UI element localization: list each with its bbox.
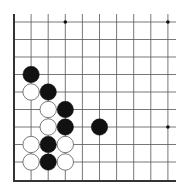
- black-stone: [40, 136, 56, 152]
- white-stone: [40, 119, 56, 135]
- black-stone: [91, 119, 107, 135]
- white-stone: [23, 84, 39, 100]
- star-point: [166, 20, 170, 24]
- black-stone: [57, 119, 73, 135]
- star-point: [166, 125, 170, 129]
- white-stone: [23, 154, 39, 170]
- black-stone: [40, 84, 56, 100]
- white-stone: [57, 154, 73, 170]
- white-stone: [23, 136, 39, 152]
- black-stone: [57, 101, 73, 117]
- white-stone: [57, 136, 73, 152]
- black-stone: [40, 154, 56, 170]
- white-stone: [40, 101, 56, 117]
- black-stone: [23, 66, 39, 82]
- grid-lines: [14, 14, 176, 181]
- star-point: [64, 20, 68, 24]
- go-board: [0, 0, 191, 196]
